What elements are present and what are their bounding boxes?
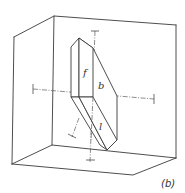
label-back-face: b xyxy=(98,80,104,91)
cube-floor-front xyxy=(12,158,176,175)
cube-floor-back xyxy=(12,145,176,164)
figure-caption: (b) xyxy=(161,178,175,189)
cube-left-front-edge xyxy=(12,37,14,164)
crystal-diagram: f b l (b) xyxy=(0,0,185,193)
crystal-prism xyxy=(71,38,117,150)
cube-back-left-edge xyxy=(52,16,54,145)
diagonal-axis-tick xyxy=(68,134,76,138)
prism-side-face xyxy=(71,38,79,97)
diagonal-axis xyxy=(72,118,79,137)
label-lower-face: l xyxy=(99,121,102,132)
